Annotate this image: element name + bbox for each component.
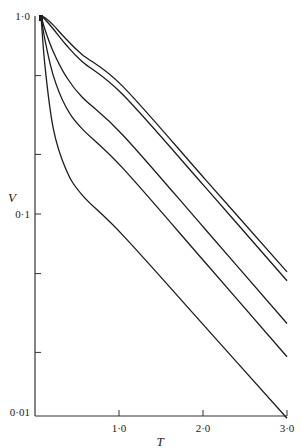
curves	[39, 15, 287, 418]
y-tick-label: 1·0	[15, 10, 30, 22]
decay-curve-5	[41, 16, 287, 418]
y-axis-title: V	[8, 190, 18, 205]
axis-labels: 1·00·10·011·02·03·0TV	[8, 10, 295, 448]
x-tick-label: 3·0	[280, 422, 295, 434]
decay-curve-3	[41, 16, 287, 324]
decay-curve-1	[41, 16, 287, 272]
axes	[35, 16, 287, 416]
x-tick-label: 2·0	[196, 422, 211, 434]
curve-origin-marker	[39, 15, 43, 21]
x-axis-title: T	[156, 434, 164, 448]
y-tick-label: 0·01	[10, 406, 30, 418]
y-tick-label: 0·1	[15, 208, 30, 220]
decay-curve-4	[41, 16, 287, 357]
x-tick-label: 1·0	[112, 422, 127, 434]
log-linear-decay-chart: 1·00·10·011·02·03·0TV	[0, 0, 302, 448]
decay-curve-2	[41, 16, 287, 281]
